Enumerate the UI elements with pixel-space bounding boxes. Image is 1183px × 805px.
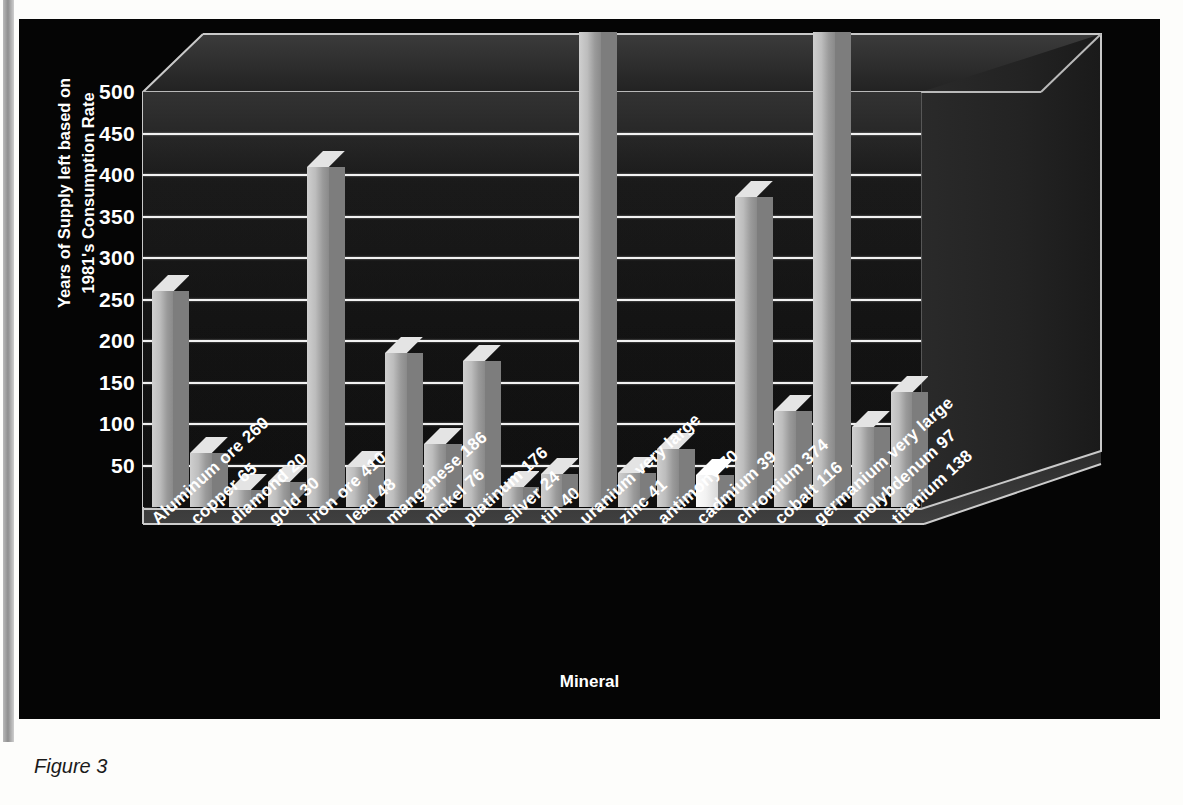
bar-top-face — [463, 345, 501, 361]
bar-top-face — [774, 395, 812, 411]
bar — [579, 32, 601, 507]
plot-area — [143, 92, 921, 507]
y-axis-tick-label: 150 — [99, 372, 135, 393]
y-axis-tick-label: 500 — [99, 81, 135, 102]
gridline — [143, 382, 921, 384]
page-binding-bar — [3, 0, 14, 742]
gridline — [143, 216, 921, 218]
bar-side-face — [329, 167, 345, 507]
bar-top-face — [891, 376, 929, 392]
bar-top-face — [852, 411, 890, 427]
bar-front-face — [307, 167, 329, 507]
gridline — [143, 257, 921, 259]
gridline — [143, 299, 921, 301]
bar-top-face — [424, 428, 462, 444]
chart-panel: Years of Supply left based on 1981's Con… — [19, 19, 1160, 719]
bar-side-face — [835, 32, 851, 507]
y-axis-tick-label: 100 — [99, 413, 135, 434]
figure-caption: Figure 3 — [34, 755, 107, 778]
bar — [813, 32, 835, 507]
gridline — [143, 340, 921, 342]
bar-top-face — [152, 275, 190, 291]
bar-front-face — [813, 32, 835, 507]
bar-top-face — [307, 151, 345, 167]
y-axis-tick-label: 300 — [99, 247, 135, 268]
bar — [152, 291, 174, 507]
y-axis-tick-label: 350 — [99, 206, 135, 227]
y-axis-tick-labels: 50045040035030025020015010050 — [47, 92, 135, 507]
y-axis-tick-label: 450 — [99, 123, 135, 144]
x-axis-title: Mineral — [19, 672, 1160, 692]
bar-top-face — [385, 337, 423, 353]
bar — [307, 167, 329, 507]
y-axis-tick-label: 400 — [99, 164, 135, 185]
y-axis-tick-label: 200 — [99, 330, 135, 351]
bar-side-face — [601, 32, 617, 507]
y-axis-tick-label: 50 — [111, 455, 135, 476]
bar-front-face — [579, 32, 601, 507]
gridline — [143, 174, 921, 176]
figure-page: Years of Supply left based on 1981's Con… — [0, 0, 1183, 805]
gridline — [143, 133, 921, 135]
bar-side-face — [173, 291, 189, 507]
bar-front-face — [152, 291, 174, 507]
y-axis-tick-label: 250 — [99, 289, 135, 310]
bar-top-face — [735, 181, 773, 197]
